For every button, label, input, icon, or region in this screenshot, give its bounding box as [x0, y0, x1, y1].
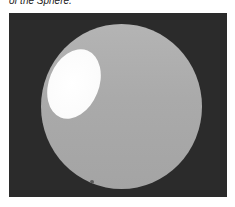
surface-spot: [90, 180, 94, 184]
figure-image: [9, 13, 227, 197]
specular-highlight: [41, 41, 111, 126]
sphere: [41, 24, 202, 189]
figure-caption: of the Sphere.: [9, 0, 72, 7]
